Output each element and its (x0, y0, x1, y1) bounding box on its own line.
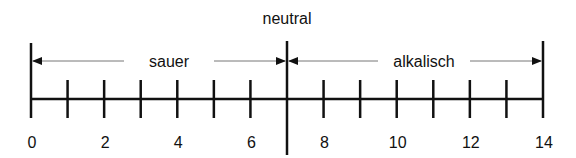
tick-label: 4 (174, 134, 183, 151)
tick-label: 12 (462, 134, 480, 151)
tick-labels: 02468101214 (28, 134, 553, 151)
alkalisch-label: alkalisch (393, 53, 454, 70)
tick-label: 14 (535, 134, 553, 151)
ph-scale-diagram: neutral sauer alkalisch 02468101214 (0, 0, 576, 158)
tick-label: 6 (247, 134, 256, 151)
neutral-label: neutral (263, 10, 312, 27)
tick-label: 10 (389, 134, 407, 151)
tick-label: 0 (28, 134, 37, 151)
tick-label: 2 (101, 134, 110, 151)
sauer-label: sauer (149, 53, 190, 70)
tick-label: 8 (320, 134, 329, 151)
